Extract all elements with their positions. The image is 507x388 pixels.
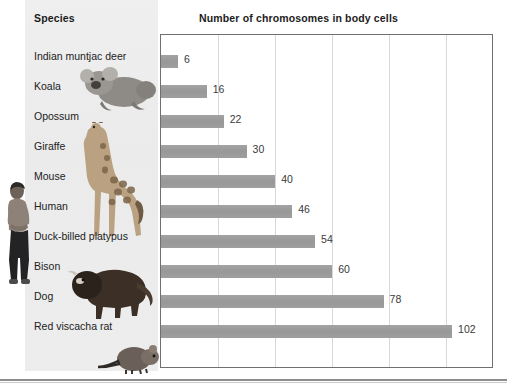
species-label: Indian muntjac deer [34, 50, 126, 62]
species-label: Human [34, 200, 68, 212]
species-label: Koala [34, 80, 61, 92]
bar-value-label: 30 [253, 143, 265, 155]
bar-value-label: 60 [338, 263, 350, 275]
bar-bison [161, 265, 332, 278]
bar-koala [161, 85, 207, 98]
chart-page: Species Number of chromosomes in body ce… [0, 0, 507, 388]
bar-value-label: 40 [281, 173, 293, 185]
bar-opossum [161, 115, 224, 128]
bar-indian-muntjac-deer [161, 55, 178, 68]
bar-value-label: 22 [230, 113, 242, 125]
bar-row: 6 [161, 47, 492, 77]
species-label: Bison [34, 260, 60, 272]
bar-row: 46 [161, 197, 492, 227]
species-column-header: Species [34, 12, 75, 24]
bar-row: 54 [161, 227, 492, 257]
bar-row: 40 [161, 167, 492, 197]
bar-red-viscacha-rat [161, 325, 452, 338]
species-label: Dog [34, 290, 53, 302]
bar-value-label: 78 [390, 293, 402, 305]
chart-plot-area: 61622304046546078102 [160, 34, 493, 368]
bar-value-label: 54 [321, 233, 333, 245]
bar-rows: 61622304046546078102 [161, 35, 492, 367]
bar-dog [161, 295, 384, 308]
bar-row: 22 [161, 107, 492, 137]
chart-title: Number of chromosomes in body cells [199, 12, 398, 24]
footer-divider [0, 379, 507, 381]
species-label: Mouse [34, 170, 66, 182]
bar-value-label: 6 [184, 53, 190, 65]
bar-row: 30 [161, 137, 492, 167]
species-label: Giraffe [34, 140, 65, 152]
species-label: Opossum [34, 110, 79, 122]
bar-row: 60 [161, 257, 492, 287]
bar-mouse [161, 175, 275, 188]
bar-value-label: 102 [458, 323, 476, 335]
footer-divider-light [0, 382, 507, 383]
species-label: Red viscacha rat [34, 320, 112, 332]
bar-value-label: 46 [298, 203, 310, 215]
species-label: Duck-billed platypus [34, 230, 128, 242]
bar-duck-billed-platypus [161, 235, 315, 248]
bar-row: 16 [161, 77, 492, 107]
bar-row: 102 [161, 317, 492, 347]
bar-row: 78 [161, 287, 492, 317]
bar-giraffe [161, 145, 247, 158]
bar-human [161, 205, 292, 218]
bar-value-label: 16 [213, 83, 225, 95]
